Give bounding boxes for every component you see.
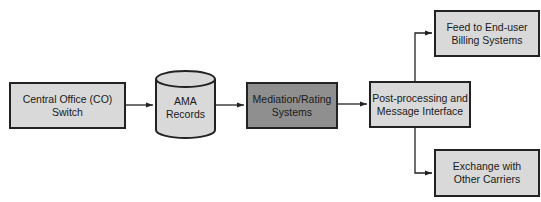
node-co-switch: Central Office (CO) Switch: [9, 82, 126, 129]
node-ama-records: AMA Records: [154, 82, 217, 134]
arrow-post-to-carriers: [415, 127, 432, 173]
node-carrier-exchange-label: Exchange with Other Carriers: [453, 160, 521, 186]
node-mediation: Mediation/Rating Systems: [246, 82, 338, 129]
node-carrier-exchange: Exchange with Other Carriers: [434, 149, 540, 197]
arrow-post-to-billing: [415, 33, 432, 81]
node-post-processing: Post-processing and Message Interface: [369, 81, 471, 128]
node-ama-records-label: AMA Records: [166, 95, 205, 121]
node-billing-feed-label: Feed to End-user Billing Systems: [446, 21, 527, 47]
node-post-processing-label: Post-processing and Message Interface: [372, 92, 468, 118]
node-co-switch-label: Central Office (CO) Switch: [23, 93, 113, 119]
node-mediation-label: Mediation/Rating Systems: [253, 93, 332, 119]
node-billing-feed: Feed to End-user Billing Systems: [434, 10, 540, 57]
